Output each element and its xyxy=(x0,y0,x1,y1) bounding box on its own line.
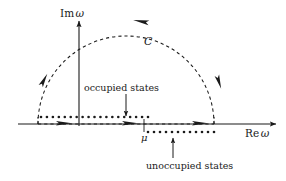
complex-plane-contour-figure: Imω Reω C μ occupied states unoccupied s… xyxy=(0,0,286,181)
occupied-pole-dot xyxy=(58,116,61,119)
base-arrow-1 xyxy=(56,121,72,126)
occupied-pole-dot xyxy=(117,116,120,119)
occupied-pole-dot xyxy=(46,116,49,119)
occupied-pole-dot xyxy=(111,116,114,119)
occupied-pole-dot xyxy=(123,116,126,119)
imaginary-axis-label-text: Im xyxy=(60,7,74,19)
occupied-pole-dot xyxy=(141,116,144,119)
real-axis-variable: ω xyxy=(259,127,269,139)
occupied-pole-dot xyxy=(81,116,84,119)
arc-top-left-arrow xyxy=(133,18,150,26)
arc-right-down-arrow xyxy=(215,75,224,90)
occupied-pole-dot xyxy=(87,116,90,119)
occupied-pole-dot xyxy=(63,116,66,119)
occupied-pole-dot xyxy=(52,116,55,119)
unoccupied-state-poles xyxy=(147,131,216,134)
contour-label: C xyxy=(144,36,152,47)
unoccupied-pole-dot xyxy=(153,131,156,134)
unoccupied-pole-dot xyxy=(207,131,210,134)
unoccupied-pole-dot xyxy=(159,131,162,134)
unoccupied-pole-dot xyxy=(213,131,216,134)
occupied-pole-dot xyxy=(93,116,96,119)
unoccupied-pole-dot xyxy=(177,131,180,134)
unoccupied-states-label: unoccupied states xyxy=(146,161,233,171)
real-axis-label: Reω xyxy=(245,128,269,139)
occupied-pole-dot xyxy=(75,116,78,119)
occupied-pole-dot xyxy=(40,116,43,119)
base-arrow-3 xyxy=(192,121,208,126)
occupied-states-label: occupied states xyxy=(84,83,159,93)
imaginary-axis-label: Imω xyxy=(60,8,84,19)
occupied-pole-dot xyxy=(147,116,150,119)
mu-label: μ xyxy=(141,133,148,143)
unoccupied-pole-dot xyxy=(183,131,186,134)
unoccupied-pole-dot xyxy=(195,131,198,134)
real-axis-label-text: Re xyxy=(245,127,259,139)
imaginary-axis-variable: ω xyxy=(74,7,84,19)
occupied-pole-dot xyxy=(69,116,72,119)
unoccupied-pole-dot xyxy=(189,131,192,134)
arc-left-up-arrow xyxy=(39,73,50,88)
occupied-pole-dot xyxy=(135,116,138,119)
unoccupied-pole-dot xyxy=(201,131,204,134)
unoccupied-pole-dot xyxy=(171,131,174,134)
occupied-pole-dot xyxy=(129,116,132,119)
base-arrow-2 xyxy=(122,121,138,126)
contour-direction-arrows xyxy=(39,18,224,126)
occupied-pole-dot xyxy=(105,116,108,119)
occupied-pole-dot xyxy=(99,116,102,119)
occupied-state-poles xyxy=(40,116,150,119)
unoccupied-pole-dot xyxy=(165,131,168,134)
